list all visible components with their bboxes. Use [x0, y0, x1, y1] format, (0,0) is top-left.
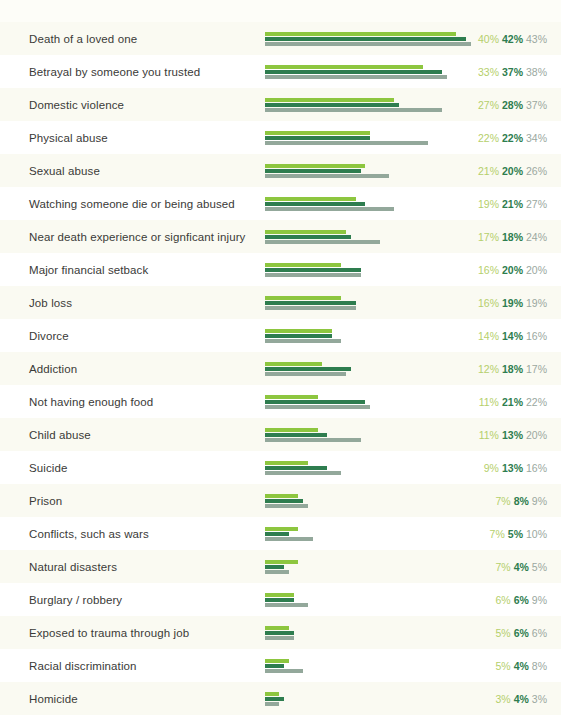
bar-series-3 [265, 669, 303, 673]
category-label: Conflicts, such as wars [29, 528, 149, 540]
value-label-series-3: 43% [526, 33, 547, 45]
value-label-series-1: 11% [479, 429, 499, 441]
category-label: Homicide [29, 693, 78, 705]
value-label-series-3: 16% [526, 330, 547, 342]
bar-series-2 [265, 697, 284, 701]
value-labels: 9%13%16% [484, 462, 547, 474]
category-label: Sexual abuse [29, 165, 100, 177]
value-label-series-2: 20% [502, 165, 523, 177]
bar-series-2 [265, 433, 327, 437]
category-label: Near death experience or signficant inju… [29, 231, 245, 243]
value-label-series-2: 42% [502, 33, 523, 45]
value-label-series-3: 38% [526, 66, 547, 78]
bar-series-1 [265, 230, 346, 234]
bar-series-3 [265, 405, 370, 409]
value-label-series-3: 37% [526, 99, 547, 111]
bar-series-3 [265, 240, 380, 244]
value-label-series-2: 14% [502, 330, 523, 342]
category-label: Exposed to trauma through job [29, 627, 189, 639]
value-label-series-1: 40% [478, 33, 499, 45]
value-labels: 33%37%38% [478, 66, 547, 78]
bar-series-3 [265, 372, 346, 376]
bar-series-2 [265, 466, 327, 470]
value-labels: 27%28%37% [478, 99, 547, 111]
value-labels: 14%14%16% [478, 330, 547, 342]
value-label-series-1: 11% [479, 396, 499, 408]
bar-series-2 [265, 103, 399, 107]
value-label-series-2: 4% [514, 660, 529, 672]
chart-row: Prison7%8%9% [0, 484, 561, 517]
chart-row: Natural disasters7%4%5% [0, 550, 561, 583]
value-label-series-1: 17% [478, 231, 499, 243]
bar-series-3 [265, 141, 428, 145]
bar-series-1 [265, 329, 332, 333]
bar-series-1 [265, 362, 322, 366]
bar-series-2 [265, 664, 284, 668]
bar-group [265, 560, 470, 574]
value-label-series-2: 20% [502, 264, 523, 276]
bar-group [265, 32, 470, 46]
chart-rows: Death of a loved one40%42%43%Betrayal by… [0, 22, 561, 715]
bar-series-2 [265, 301, 356, 305]
bar-series-3 [265, 471, 341, 475]
bar-series-3 [265, 273, 361, 277]
bar-series-2 [265, 70, 442, 74]
value-labels: 7%5%10% [490, 528, 547, 540]
bar-series-1 [265, 395, 318, 399]
chart-row: Suicide9%13%16% [0, 451, 561, 484]
value-labels: 7%4%5% [495, 561, 547, 573]
bar-series-1 [265, 65, 423, 69]
bar-group [265, 395, 470, 409]
value-label-series-1: 7% [495, 495, 510, 507]
bar-series-1 [265, 461, 308, 465]
chart-row: Burglary / robbery6%6%9% [0, 583, 561, 616]
value-label-series-1: 16% [478, 297, 499, 309]
bar-group [265, 692, 470, 706]
value-label-series-3: 9% [532, 594, 547, 606]
bar-series-2 [265, 367, 351, 371]
chart-row: Homicide3%4%3% [0, 682, 561, 715]
value-label-series-1: 7% [490, 528, 505, 540]
category-label: Job loss [29, 297, 72, 309]
value-label-series-3: 8% [532, 660, 547, 672]
value-label-series-1: 22% [478, 132, 499, 144]
value-label-series-2: 4% [514, 693, 529, 705]
bar-series-1 [265, 626, 289, 630]
chart-row: Exposed to trauma through job5%6%6% [0, 616, 561, 649]
value-label-series-3: 3% [532, 693, 547, 705]
bar-series-1 [265, 527, 298, 531]
value-label-series-2: 5% [508, 528, 523, 540]
bar-group [265, 197, 470, 211]
bar-group [265, 263, 470, 277]
bar-series-2 [265, 202, 365, 206]
value-labels: 17%18%24% [478, 231, 547, 243]
bar-series-1 [265, 98, 394, 102]
value-label-series-1: 7% [495, 561, 510, 573]
chart-row: Racial discrimination5%4%8% [0, 649, 561, 682]
value-label-series-1: 5% [495, 627, 510, 639]
bar-series-1 [265, 164, 365, 168]
value-label-series-1: 3% [495, 693, 510, 705]
category-label: Betrayal by someone you trusted [29, 66, 200, 78]
category-label: Physical abuse [29, 132, 108, 144]
chart-row: Death of a loved one40%42%43% [0, 22, 561, 55]
bar-series-2 [265, 169, 361, 173]
value-label-series-3: 26% [526, 165, 547, 177]
value-label-series-1: 16% [478, 264, 499, 276]
bar-group [265, 494, 470, 508]
value-label-series-3: 16% [526, 462, 547, 474]
value-labels: 3%4%3% [495, 693, 547, 705]
bar-series-2 [265, 334, 332, 338]
value-label-series-3: 19% [526, 297, 547, 309]
value-label-series-2: 18% [502, 363, 523, 375]
bar-series-1 [265, 494, 298, 498]
bar-group [265, 461, 470, 475]
bar-series-3 [265, 42, 471, 46]
bar-series-2 [265, 532, 289, 536]
bar-group [265, 131, 470, 145]
bar-series-1 [265, 428, 318, 432]
bar-series-2 [265, 598, 294, 602]
bar-series-1 [265, 32, 456, 36]
category-label: Natural disasters [29, 561, 117, 573]
